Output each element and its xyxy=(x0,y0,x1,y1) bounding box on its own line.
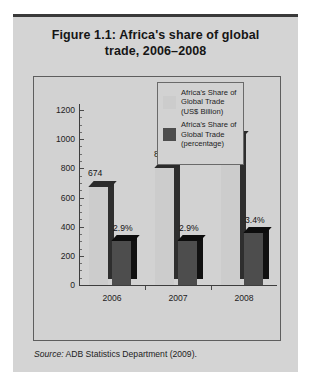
y-axis-minor-tick xyxy=(80,234,82,235)
y-axis-minor-tick xyxy=(80,270,82,271)
y-axis-tick xyxy=(80,227,84,228)
source-value: ADB Statistics Department (2009). xyxy=(64,349,197,359)
source-note: Source: ADB Statistics Department (2009)… xyxy=(34,349,197,359)
x-axis-tick xyxy=(145,286,146,290)
x-axis-tick xyxy=(211,286,212,290)
y-axis-tick xyxy=(80,139,84,140)
bar-dark-face xyxy=(244,233,263,285)
source-label: Source: xyxy=(34,349,64,359)
bar-dark-face xyxy=(178,241,197,285)
y-axis-tick xyxy=(80,256,84,257)
legend-label-line: Global Trade xyxy=(181,97,236,106)
legend-item: Africa's Share of Global Trade (percenta… xyxy=(163,120,239,148)
y-axis-tick-label: 200 xyxy=(43,251,75,261)
y-axis-minor-tick xyxy=(80,125,82,126)
y-axis-minor-tick xyxy=(80,212,82,213)
y-axis-minor-tick xyxy=(80,263,82,264)
y-axis-minor-tick xyxy=(80,176,82,177)
bar-light-face xyxy=(89,187,108,285)
y-axis-minor-tick xyxy=(80,219,82,220)
y-axis-tick-label: 800 xyxy=(43,163,75,173)
bar-light-face xyxy=(155,168,174,285)
y-axis-tick xyxy=(80,110,84,111)
y-axis-tick xyxy=(80,198,84,199)
legend-swatch-us-dollar-billion xyxy=(163,96,176,109)
y-axis-minor-tick xyxy=(80,117,82,118)
legend-label-line: Africa's Share of xyxy=(181,120,236,129)
y-axis-minor-tick xyxy=(80,161,82,162)
y-axis-minor-tick xyxy=(80,132,82,133)
legend-swatch-percentage xyxy=(163,128,176,141)
y-axis-minor-tick xyxy=(80,205,82,206)
x-axis-category-label: 2007 xyxy=(145,293,211,303)
y-axis-minor-tick xyxy=(80,183,82,184)
chart-plot-box: 0200400600800100012006742.9%20068052.9%2… xyxy=(33,76,281,341)
legend-label-line: (percentage) xyxy=(181,139,236,148)
legend-label-us-dollar-billion: Africa's Share of Global Trade (US$ Bill… xyxy=(181,88,236,116)
bar-value-label: 2.9% xyxy=(179,223,199,233)
x-axis-category-label: 2008 xyxy=(211,293,277,303)
figure-panel: Figure 1.1: Africa's share of global tra… xyxy=(13,14,298,372)
y-axis-tick-label: 600 xyxy=(43,193,75,203)
y-axis-tick-label: 1200 xyxy=(43,105,75,115)
legend-label-percentage: Africa's Share of Global Trade (percenta… xyxy=(181,120,236,148)
y-axis-tick-label: 0 xyxy=(43,280,75,290)
y-axis-tick-label: 400 xyxy=(43,222,75,232)
figure-title-line-1: Figure 1.1: Africa's share of global xyxy=(23,27,288,43)
x-axis-category-label: 2006 xyxy=(79,293,145,303)
y-axis-tick-label: 1000 xyxy=(43,134,75,144)
legend-label-line: Global Trade xyxy=(181,130,236,139)
figure-title-line-2: trade, 2006–2008 xyxy=(23,43,288,59)
y-axis-minor-tick xyxy=(80,241,82,242)
chart-legend: Africa's Share of Global Trade (US$ Bill… xyxy=(157,82,244,165)
legend-item: Africa's Share of Global Trade (US$ Bill… xyxy=(163,88,239,116)
y-axis-minor-tick xyxy=(80,146,82,147)
y-axis-tick xyxy=(80,168,84,169)
bar-value-label: 674 xyxy=(88,168,102,178)
bar-dark-side xyxy=(131,235,137,279)
x-axis-line xyxy=(79,285,277,286)
bar-dark-face xyxy=(112,241,131,285)
y-axis-minor-tick xyxy=(80,278,82,279)
bar-value-label: 3.4% xyxy=(245,215,265,225)
figure-title: Figure 1.1: Africa's share of global tra… xyxy=(23,27,288,59)
bar-value-label: 2.9% xyxy=(113,223,133,233)
y-axis-minor-tick xyxy=(80,190,82,191)
y-axis-minor-tick xyxy=(80,249,82,250)
y-axis-minor-tick xyxy=(80,154,82,155)
bar-dark-side xyxy=(197,235,203,279)
bar-dark-side xyxy=(263,227,269,279)
legend-label-line: (US$ Billion) xyxy=(181,107,236,116)
legend-label-line: Africa's Share of xyxy=(181,88,236,97)
